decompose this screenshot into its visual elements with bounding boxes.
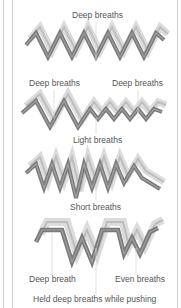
label-deep-breath: Deep breath <box>29 274 76 284</box>
label-even-breaths: Even breaths <box>115 274 165 284</box>
label-held-deep-breaths-while-pushing: Held deep breaths while pushing <box>33 294 156 304</box>
wave-held-breaths <box>0 0 181 308</box>
